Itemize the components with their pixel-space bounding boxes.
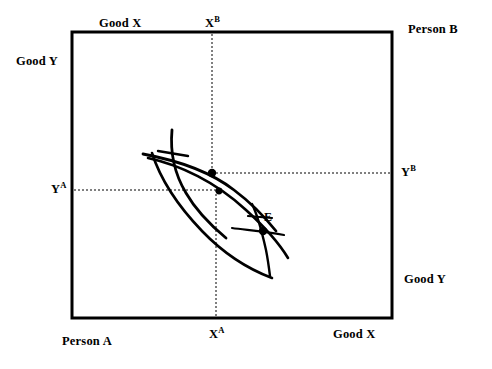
label-y-a-superscript: A xyxy=(60,180,66,190)
label-y-a: YA xyxy=(51,182,67,197)
label-x-a-base: X xyxy=(209,327,218,341)
label-y-b: YB xyxy=(401,165,416,180)
point-tangency-lower xyxy=(216,188,223,195)
label-good-y-right: Good Y xyxy=(404,272,446,287)
label-person-a: Person A xyxy=(62,334,112,349)
label-good-x-top: Good X xyxy=(99,16,142,31)
point-tangency-upper xyxy=(208,169,216,177)
label-x-b-base: X xyxy=(205,16,214,30)
label-x-b: XB xyxy=(205,16,220,31)
label-good-y-left: Good Y xyxy=(16,54,58,69)
label-y-b-superscript: B xyxy=(410,163,416,173)
indifference-curve-b-inner xyxy=(172,130,226,238)
label-person-b: Person B xyxy=(408,22,458,37)
label-x-b-superscript: B xyxy=(214,14,220,24)
label-equilibrium-e: E xyxy=(264,210,272,225)
label-y-a-base: Y xyxy=(51,182,60,196)
point-equilibrium-e xyxy=(259,227,267,235)
diagram-canvas xyxy=(0,0,492,369)
label-x-a-superscript: A xyxy=(218,325,224,335)
label-x-a: XA xyxy=(209,327,225,342)
label-good-x-bottom: Good X xyxy=(333,327,376,342)
edgeworth-box-figure: Good X XB Person B Good Y YA YB E Good Y… xyxy=(0,0,492,369)
label-y-b-base: Y xyxy=(401,165,410,179)
box-outline xyxy=(72,32,392,318)
